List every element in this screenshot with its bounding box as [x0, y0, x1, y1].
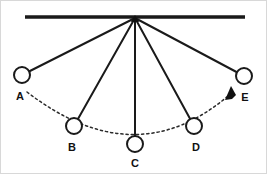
pendulum-bob-d [186, 118, 202, 134]
bob-label-c: C [131, 157, 139, 169]
pendulum-bob-c [127, 136, 143, 152]
pendulum-strings-group [22, 18, 244, 144]
pendulum-bobs-group: ABCDE [14, 67, 252, 169]
pendulum-diagram-figure: ABCDE [0, 0, 267, 174]
direction-of-motion-arrow-icon [225, 86, 236, 100]
bob-label-d: D [192, 141, 200, 153]
pendulum-bob-a [14, 67, 30, 83]
pendulum-bob-b [66, 118, 82, 134]
bob-label-b: B [68, 141, 76, 153]
bob-label-e: E [241, 91, 248, 103]
pendulum-bob-e [236, 68, 252, 84]
bob-label-a: A [16, 90, 24, 102]
diagram-canvas: ABCDE [0, 0, 267, 174]
